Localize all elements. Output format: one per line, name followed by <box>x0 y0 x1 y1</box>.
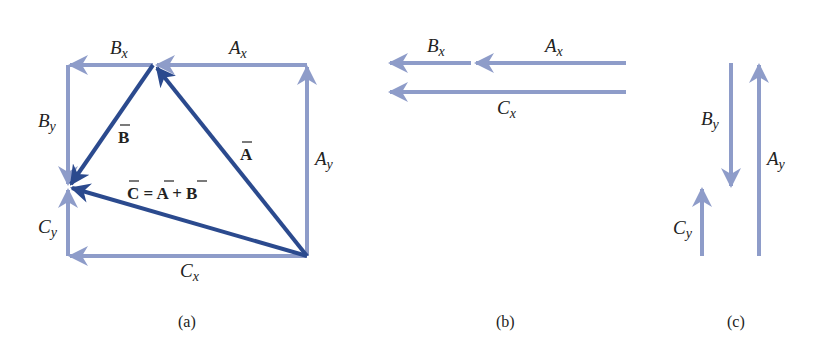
panel-b: Bx Ax Cx (b) <box>390 35 626 331</box>
label-ax: Ax <box>543 35 564 59</box>
label-vector-a: A <box>240 145 253 164</box>
label-cx: Cx <box>497 97 517 121</box>
label-ay: Ay <box>765 148 786 172</box>
vector-a <box>157 68 307 256</box>
caption-a: (a) <box>178 313 196 331</box>
label-by: By <box>701 108 720 132</box>
caption-c: (c) <box>727 313 745 331</box>
label-ax: Ax <box>227 37 248 61</box>
panel-c: By Ay Cy (c) <box>673 63 786 331</box>
label-cx: Cx <box>180 260 200 284</box>
label-vector-b: B <box>118 128 129 147</box>
caption-b: (b) <box>496 313 515 331</box>
label-sum: C = A + B <box>127 184 197 203</box>
label-bx: Bx <box>110 37 129 61</box>
vector-addition-diagram: Bx Ax By Ay Cy Cx B A C = A + B (a) Bx A… <box>0 0 833 359</box>
label-cy: Cy <box>673 217 693 241</box>
label-ay: Ay <box>313 148 334 172</box>
panel-a: Bx Ax By Ay Cy Cx B A C = A + B (a) <box>38 37 334 331</box>
label-bx: Bx <box>427 35 446 59</box>
label-by: By <box>38 110 57 134</box>
vector-b <box>71 65 153 184</box>
label-cy: Cy <box>38 216 58 240</box>
